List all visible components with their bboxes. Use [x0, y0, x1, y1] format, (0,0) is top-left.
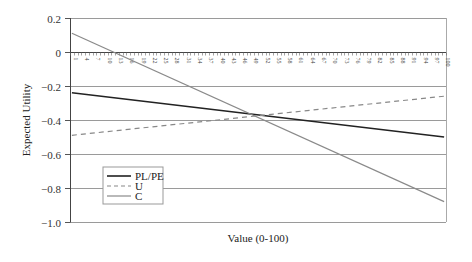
series-line-u — [72, 96, 444, 135]
x-tick-label: 85 — [389, 58, 395, 64]
x-tick-label: 28 — [174, 58, 180, 64]
x-tick-label: 70 — [332, 58, 338, 64]
x-tick-label: 67 — [321, 58, 327, 64]
y-tick-label: 0 — [56, 47, 62, 59]
y-tick-label: −1.0 — [41, 217, 61, 229]
x-tick-label: 7 — [95, 58, 101, 61]
x-tick-label: 37 — [208, 58, 214, 64]
legend: PL/PE U C — [103, 167, 164, 204]
x-tick-label: 4 — [84, 58, 90, 61]
x-tick-label: 31 — [186, 58, 192, 64]
line-chart: 0.20−0.2−0.4−0.6−0.8−1.0 147101316192225… — [0, 0, 472, 262]
x-tick-label: 1 — [73, 58, 79, 61]
x-tick-label: 19 — [141, 58, 147, 64]
y-axis-title: Expected Utility — [20, 83, 32, 156]
x-tick-label: 58 — [287, 58, 293, 64]
x-tick-label: 79 — [366, 58, 372, 64]
x-tick-label: 22 — [152, 58, 158, 64]
x-axis-title: Value (0-100) — [228, 232, 289, 245]
y-tick-label: 0.2 — [47, 13, 61, 25]
x-tick-label: 100 — [445, 58, 451, 67]
x-tick-label: 76 — [355, 58, 361, 64]
x-tick-label: 61 — [298, 58, 304, 64]
series-line-pl-pe — [72, 93, 444, 137]
y-tick-label: −0.2 — [41, 81, 61, 93]
x-tick-label: 43 — [231, 58, 237, 64]
x-tick-label: 49 — [253, 58, 259, 64]
x-tick-label: 10 — [107, 58, 113, 64]
x-tick-label: 82 — [377, 58, 383, 64]
x-axis: 1471013161922252831343740434649525558616… — [70, 53, 451, 67]
y-tick-label: −0.4 — [41, 115, 61, 127]
x-tick-label: 91 — [411, 58, 417, 64]
x-tick-label: 13 — [118, 58, 124, 64]
legend-label-c: C — [135, 190, 142, 202]
x-tick-label: 73 — [344, 58, 350, 64]
x-tick-label: 40 — [220, 58, 226, 64]
y-tick-label: −0.6 — [41, 149, 61, 161]
x-tick-label: 88 — [400, 58, 406, 64]
x-tick-label: 55 — [276, 58, 282, 64]
x-tick-label: 34 — [197, 58, 203, 64]
y-tick-label: −0.8 — [41, 183, 61, 195]
y-axis: 0.20−0.2−0.4−0.6−0.8−1.0 — [41, 13, 70, 229]
x-tick-label: 46 — [242, 58, 248, 64]
x-tick-label: 25 — [163, 58, 169, 64]
x-tick-label: 94 — [423, 58, 429, 64]
x-tick-label: 97 — [434, 58, 440, 64]
x-tick-label: 52 — [265, 58, 271, 64]
x-tick-label: 64 — [310, 58, 316, 64]
